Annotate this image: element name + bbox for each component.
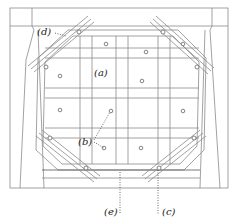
label-e: (e) [104,207,118,217]
label-c: (c) [162,207,175,217]
label-d: (d) [37,27,51,37]
frame-drawing [0,0,240,221]
label-b: (b) [78,137,92,147]
brace-top-left [28,16,94,72]
label-a: (a) [94,68,108,78]
frame-diagram: (a) (b) (c) (d) (e) [0,0,240,221]
